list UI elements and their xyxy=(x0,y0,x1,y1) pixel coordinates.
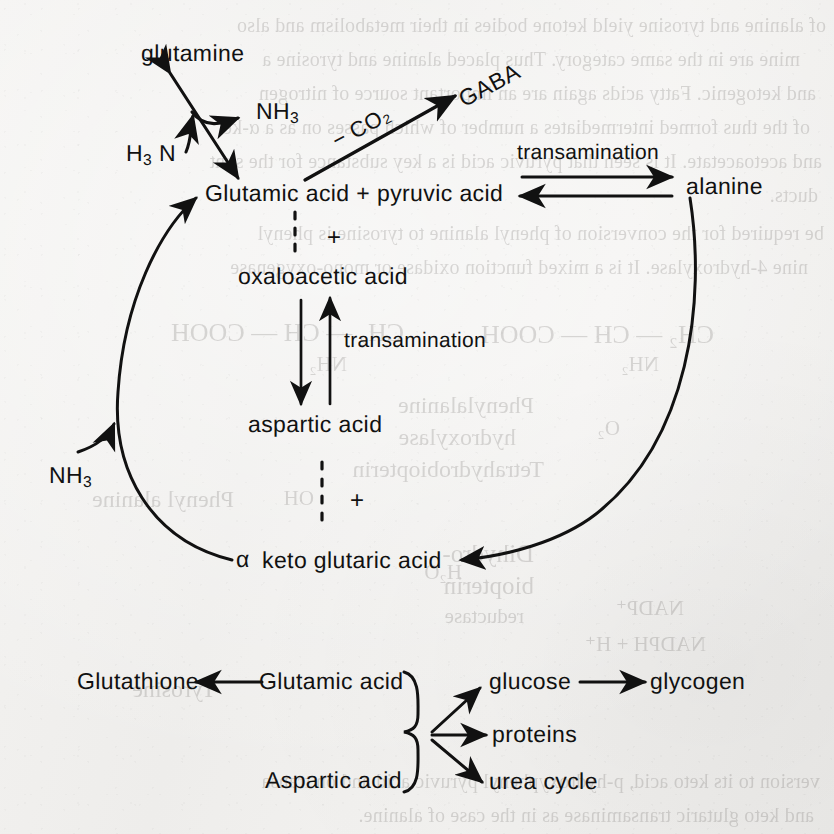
arrow-h3n-input xyxy=(186,116,193,152)
label-proteins: proteins xyxy=(492,723,577,746)
label-glycogen: glycogen xyxy=(650,670,745,693)
subscript-3: 3 xyxy=(290,110,299,127)
label-plus-mid: + xyxy=(350,489,364,513)
arrow-glutamine-glutamic-reversible xyxy=(170,73,238,178)
arrow-ketoglutaric-to-glutamic xyxy=(117,198,232,560)
brace-acids-group xyxy=(404,672,418,792)
label-glucose: glucose xyxy=(489,670,571,693)
label-alanine: alanine xyxy=(686,175,763,198)
label-oxaloacetic-acid: oxaloacetic acid xyxy=(238,265,408,288)
scanned-diagram-page: of alanine and tyrosine yield ketone bod… xyxy=(0,0,834,834)
label-keto-glutaric-acid: keto glutaric acid xyxy=(262,549,442,572)
label-urea-cycle: urea cycle xyxy=(489,770,598,793)
label-glutathione: Glutathione xyxy=(77,670,199,693)
arrow-nh3-release xyxy=(192,112,238,124)
label-transamination-mid: transamination xyxy=(344,330,486,351)
label-nh3-released: NH3 xyxy=(256,100,299,127)
label-glutamic-acid-bottom: Glutamic acid xyxy=(259,670,404,693)
arrow-alanine-to-ketoglutaric xyxy=(462,198,695,560)
arrow-to-glucose xyxy=(432,688,480,732)
label-plus-top: + xyxy=(327,226,341,250)
arrow-nh3-into-cycle xyxy=(78,424,114,452)
subscript-3: 3 xyxy=(143,152,152,169)
label-alpha-symbol: α xyxy=(236,548,249,571)
diagram-arrows-layer: Glutamic acid (double-headed diagonal) -… xyxy=(0,0,834,834)
label-transamination-top: transamination xyxy=(517,142,659,163)
label-aspartic-acid-bottom: Aspartic acid xyxy=(265,769,402,792)
arrow-to-urea-cycle xyxy=(432,740,482,782)
label-glutamine: glutamine xyxy=(141,42,244,65)
label-nh3-input-cycle: NH3 xyxy=(49,464,92,491)
label-h3n-input: H3 N xyxy=(126,142,176,169)
subscript-3: 3 xyxy=(83,474,92,491)
label-aspartic-acid: aspartic acid xyxy=(248,413,382,436)
label-glutamic-plus-pyruvic: Glutamic acid + pyruvic acid xyxy=(205,182,503,205)
